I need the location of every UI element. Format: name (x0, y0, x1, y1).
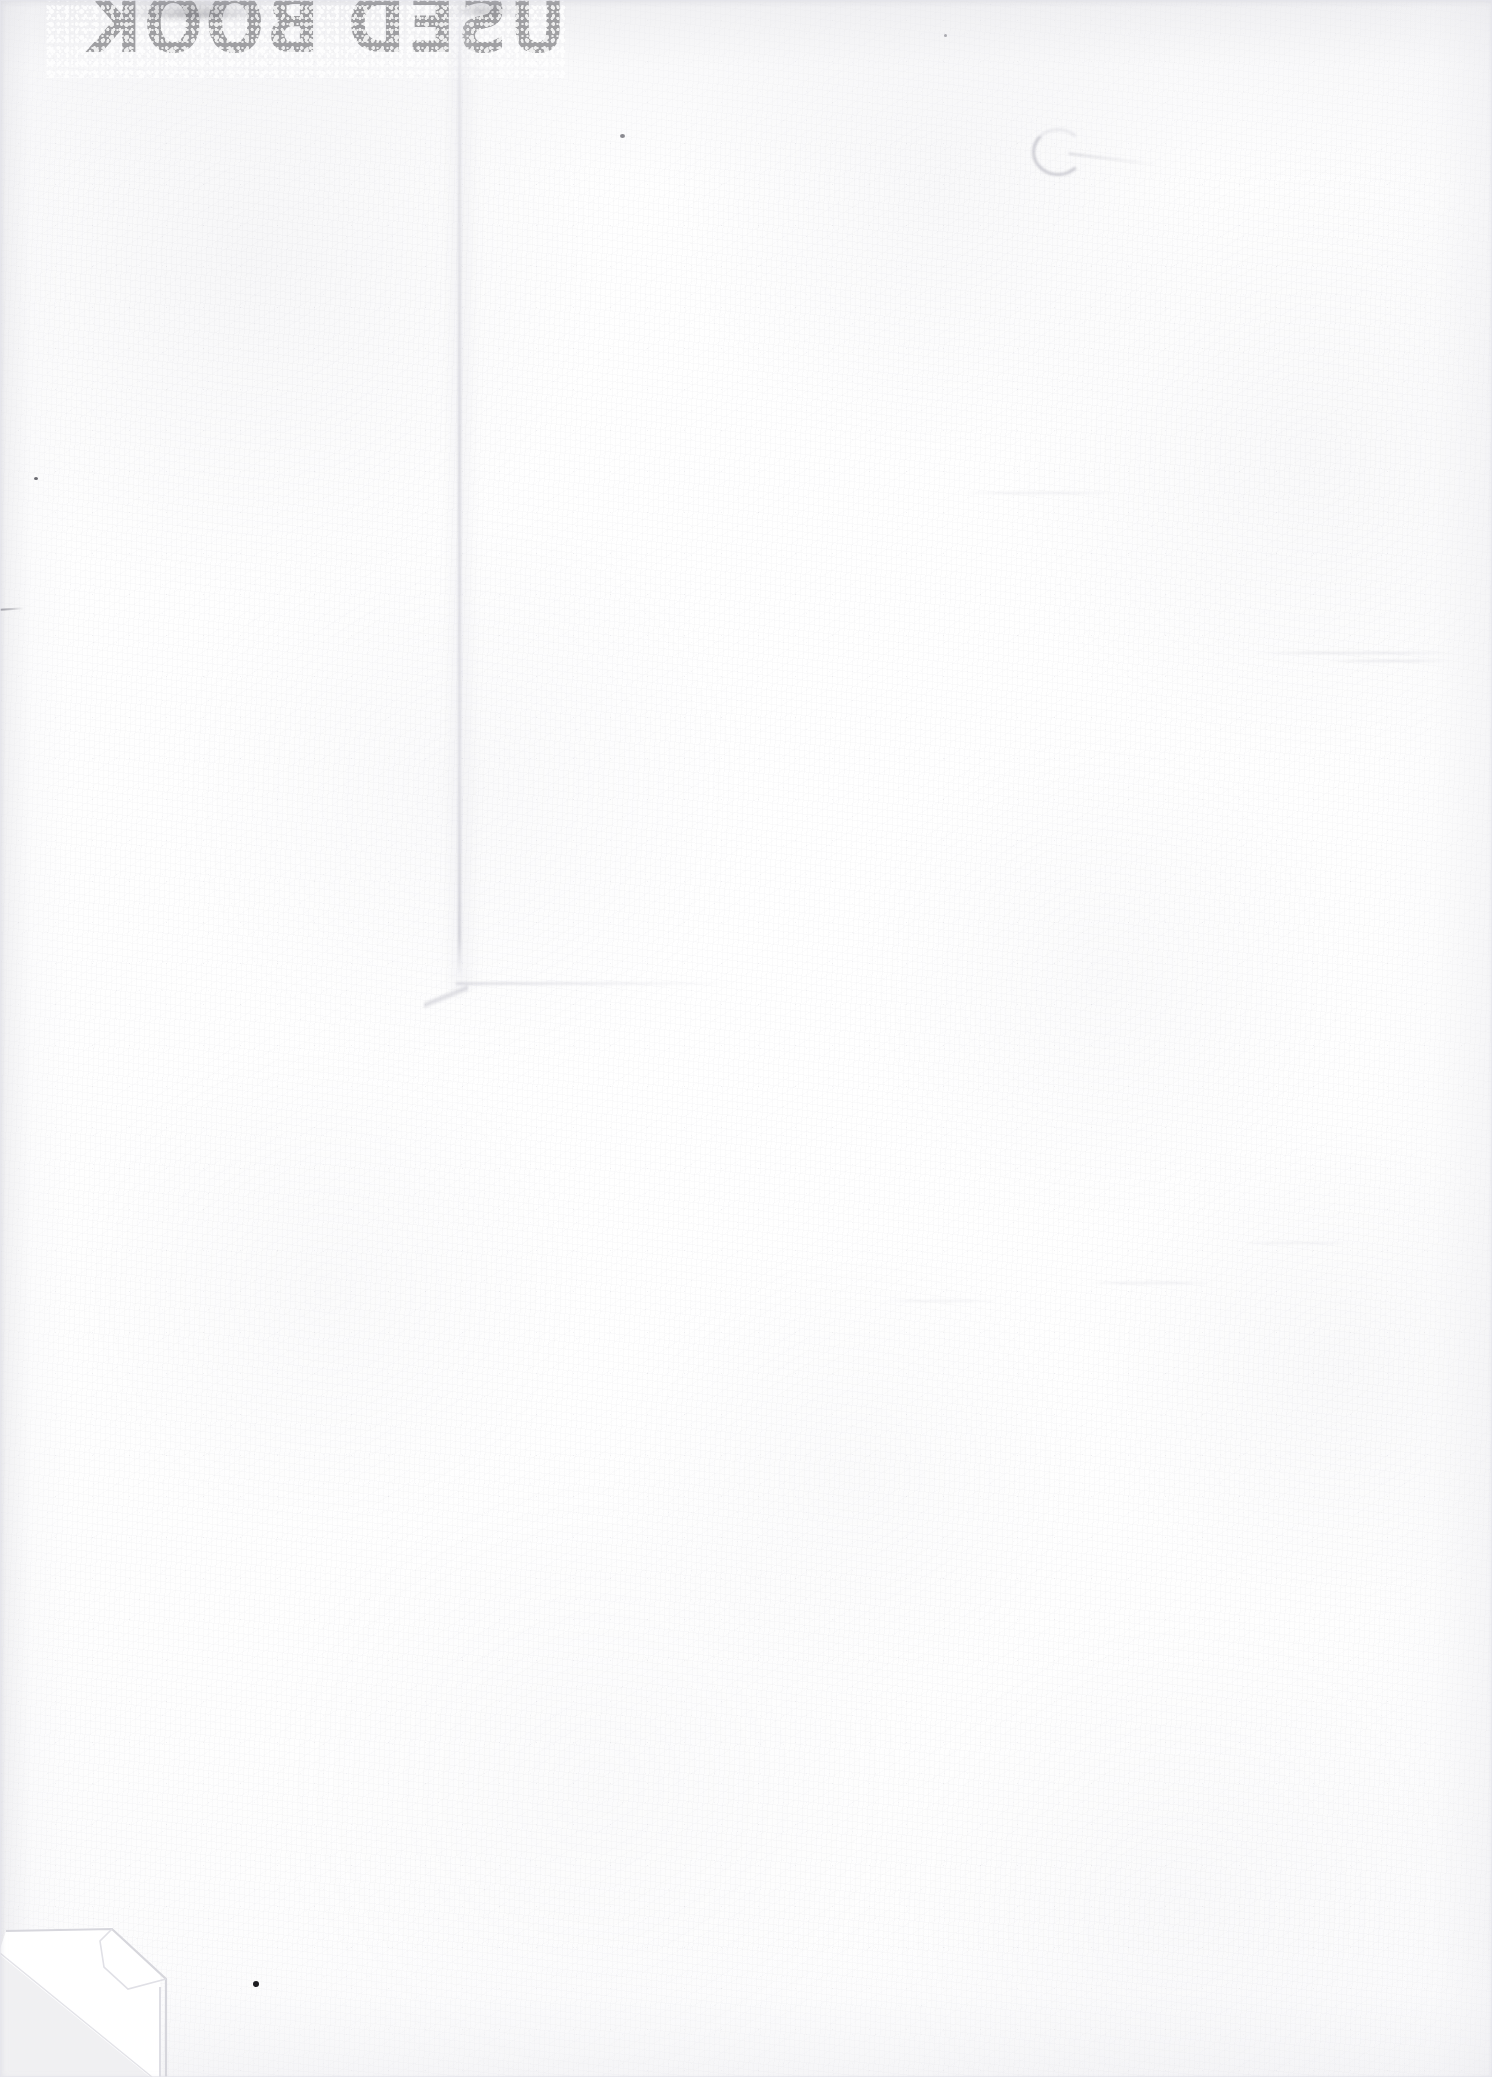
crease-kink (424, 968, 468, 1026)
bottom-edge-shadow (0, 1927, 1492, 2077)
vertical-crease (458, 16, 461, 976)
paper-streak (1330, 660, 1450, 662)
left-edge-shadow (0, 0, 70, 2077)
ink-speck (620, 134, 625, 138)
paper-streak (1085, 1282, 1215, 1284)
ink-smudge (1032, 128, 1084, 176)
ink-speck (944, 34, 947, 37)
paper-streak (960, 492, 1120, 494)
ink-speck (34, 477, 38, 480)
vertical-crease-halo (444, 10, 478, 990)
top-edge-shadow (0, 0, 1492, 190)
horizontal-crease (456, 982, 736, 985)
paper-speckle-texture (0, 0, 1492, 2077)
paper-streak (1240, 1242, 1350, 1244)
paper-streak (880, 1300, 1000, 1302)
right-edge-shadow (1372, 0, 1492, 2077)
ink-dot (253, 1981, 259, 1987)
paper-streak (1255, 652, 1455, 654)
scanned-page: USED BOOK (0, 0, 1492, 2077)
